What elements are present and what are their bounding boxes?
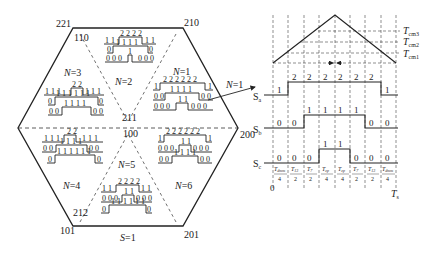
svg-text:T7: T7 (307, 166, 313, 173)
sector-label-n3: N=3 (63, 67, 81, 78)
svg-text:2: 2 (371, 176, 374, 182)
svg-text:0: 0 (48, 155, 52, 164)
svg-text:2: 2 (294, 176, 297, 182)
interval-3: T72 (306, 166, 317, 182)
svg-text:1 1: 1 1 (124, 187, 134, 196)
interval-1: Tdmm4 (274, 166, 287, 182)
svg-text:2 2 2 2: 2 2 2 2 (118, 177, 140, 186)
svg-text:1 1: 1 1 (181, 137, 191, 146)
vertex-label-212: 212 (73, 207, 88, 218)
svg-text:0 0 0: 0 0 0 (158, 144, 174, 153)
svg-text:N=1: N=1 (225, 79, 243, 90)
svg-text:2: 2 (323, 72, 328, 82)
svg-text:Sc: Sc (253, 158, 262, 170)
svg-text:0: 0 (277, 153, 282, 163)
svg-text:1: 1 (208, 82, 212, 91)
svg-text:T7: T7 (353, 166, 359, 173)
svg-text:4: 4 (341, 176, 344, 182)
svg-text:1 1: 1 1 (145, 36, 155, 45)
svg-text:0 0: 0 0 (43, 144, 53, 153)
svg-text:Tzp: Tzp (338, 166, 345, 173)
svg-text:0: 0 (107, 45, 111, 54)
interval-6: T72 (352, 166, 363, 182)
sector-label-n2: N=2 (114, 76, 132, 87)
svg-text:0: 0 (149, 45, 153, 54)
svg-text:2: 2 (307, 72, 312, 82)
svg-text:1 1 1 1: 1 1 1 1 (174, 148, 196, 157)
signal-sb: Sb 00 1111 00 (253, 105, 398, 136)
pulse-values-n3: 1 1 12 21 1 1 01 1 1 1 1 10 0 01 1 1 10 … (45, 80, 103, 116)
svg-text:Tzp: Tzp (322, 166, 329, 173)
svg-text:2: 2 (309, 176, 312, 182)
switching-label-s1: S=1 (120, 232, 136, 243)
svg-text:2 2 2 2 2 2: 2 2 2 2 2 2 (166, 127, 200, 136)
sector-label-n5: N=5 (117, 159, 135, 170)
vertex-label-101: 101 (60, 225, 75, 236)
vertex-label-221: 221 (56, 18, 71, 29)
interval-labels: Tdmm4 T132 T72 Tzp4 Tzp4 T72 T132 Tdmm4 (274, 166, 395, 182)
svg-text:4: 4 (278, 176, 281, 182)
svg-text:1 1 1 1 1 1: 1 1 1 1 1 1 (56, 89, 90, 98)
svg-text:1 1 1 1: 1 1 1 1 (116, 38, 138, 47)
svg-text:2 2 2 2: 2 2 2 2 (120, 29, 142, 38)
svg-text:0 0 0: 0 0 0 (154, 102, 170, 111)
svg-text:T13: T13 (368, 166, 375, 173)
svg-text:Tdmm: Tdmm (274, 166, 285, 173)
svg-text:0: 0 (385, 118, 390, 128)
svg-text:1 1: 1 1 (178, 95, 188, 104)
svg-text:0: 0 (369, 153, 374, 163)
svg-text:4: 4 (386, 176, 389, 182)
tcm2-label: Tcm2 (403, 36, 419, 48)
svg-text:2: 2 (355, 176, 358, 182)
svg-text:1 1 1 1: 1 1 1 1 (64, 99, 86, 108)
svg-text:1 1 1: 1 1 1 (82, 134, 98, 143)
svg-text:1: 1 (385, 85, 390, 95)
svg-text:Tdmm: Tdmm (382, 166, 393, 173)
svg-text:1 1: 1 1 (105, 36, 115, 45)
svg-text:0: 0 (354, 153, 359, 163)
svg-text:1: 1 (338, 139, 343, 149)
svg-text:Sa: Sa (253, 91, 262, 103)
svg-text:1: 1 (158, 134, 162, 143)
svg-text:0 0: 0 0 (49, 107, 59, 116)
interval-2: T132 (290, 166, 302, 182)
svg-text:0: 0 (48, 97, 52, 106)
sector-arrow: N=1 (208, 79, 255, 100)
sector-label-n4: N=4 (62, 180, 80, 191)
svg-text:1: 1 (307, 105, 312, 115)
svg-text:1 1: 1 1 (102, 184, 112, 193)
svg-text:0 0: 0 0 (159, 155, 169, 164)
svg-text:1: 1 (208, 134, 212, 143)
svg-text:0: 0 (147, 205, 151, 214)
axis-end-label: Ts (391, 188, 400, 200)
svg-text:0 0: 0 0 (154, 92, 164, 101)
svg-text:1: 1 (128, 47, 132, 56)
svg-text:0 0: 0 0 (93, 107, 103, 116)
sector-label-n6: N=6 (174, 180, 192, 191)
vertex-label-201: 201 (184, 229, 199, 240)
svg-text:0: 0 (369, 118, 374, 128)
svg-text:0: 0 (292, 153, 297, 163)
svg-text:1 1 1 1: 1 1 1 1 (60, 137, 82, 146)
svg-text:1: 1 (323, 105, 328, 115)
svg-text:0 0 0: 0 0 0 (191, 102, 207, 111)
vertex-label-110: 110 (74, 32, 89, 43)
svg-text:2: 2 (369, 72, 374, 82)
svg-text:1: 1 (323, 139, 328, 149)
svg-text:Sb: Sb (253, 124, 262, 136)
svg-text:1 1 1: 1 1 1 (44, 134, 60, 143)
svg-text:1: 1 (277, 85, 282, 95)
svg-text:1 1 1 1 1 1: 1 1 1 1 1 1 (57, 147, 91, 156)
svg-text:1: 1 (354, 105, 359, 115)
interval-4: Tzp4 (321, 166, 333, 182)
svg-text:0: 0 (99, 97, 103, 106)
vertex-label-211: 211 (122, 112, 137, 123)
svg-text:2: 2 (354, 72, 359, 82)
svg-text:2 2 2 2 2 2: 2 2 2 2 2 2 (163, 75, 197, 84)
pulse-values-n5: 1 12 2 2 21 1 0 0 01 10 0 0 01 1 1 1 1 1… (102, 177, 152, 214)
svg-text:0 0: 0 0 (200, 155, 210, 164)
svg-text:0: 0 (307, 153, 312, 163)
svg-text:2: 2 (338, 72, 343, 82)
svm-diagram: 221 210 200 201 101 110 211 100 212 N=3 … (0, 0, 438, 254)
svg-text:2 2: 2 2 (72, 80, 82, 89)
